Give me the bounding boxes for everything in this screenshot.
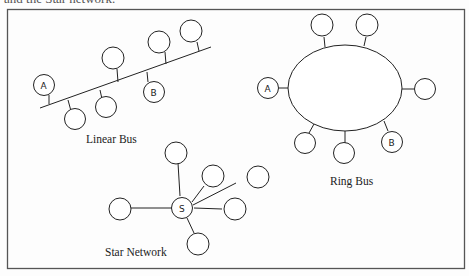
ring-bus-node-b-label: B (389, 138, 395, 148)
star-network-node (224, 198, 246, 220)
ring-bus-node (311, 14, 333, 36)
star-network-node (202, 165, 224, 187)
ring-bus-title: Ring Bus (330, 175, 374, 188)
star-network-hub-label: S (179, 204, 185, 214)
linear-bus-line (40, 47, 211, 108)
linear-bus-title: Linear Bus (86, 133, 137, 145)
ring-bus-ring (288, 45, 402, 131)
linear-bus-node (65, 109, 86, 130)
ring-bus-diagram (258, 14, 436, 164)
linear-bus-node (96, 97, 117, 118)
linear-bus-node (180, 20, 202, 42)
linear-bus-node-b-label: B (151, 88, 157, 98)
ring-bus-node (334, 143, 355, 164)
ring-bus-node-a-label: A (265, 84, 272, 94)
star-network-node (247, 166, 269, 188)
ring-bus-node (356, 14, 378, 36)
ring-bus-node (295, 133, 316, 154)
star-network-diagram (109, 142, 269, 255)
star-network-title: Star Network (105, 246, 167, 258)
linear-bus-node-a-label: A (41, 81, 48, 91)
star-network-node (165, 142, 187, 164)
star-network-node (187, 233, 209, 255)
network-topologies-figure: A B Linear Bus A B Ring Bus (0, 0, 469, 276)
linear-bus-node (102, 47, 124, 69)
linear-bus-node (148, 31, 170, 53)
ring-bus-node (415, 79, 436, 100)
star-network-node (109, 198, 131, 220)
linear-bus-diagram (34, 20, 212, 130)
